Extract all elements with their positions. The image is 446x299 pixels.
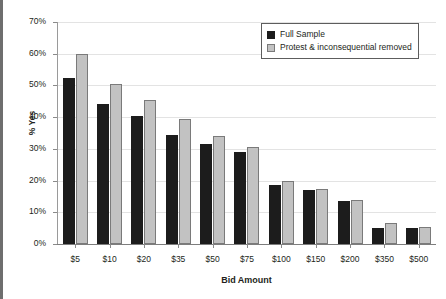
bar-group: $75 (230, 22, 264, 244)
y-axis-tick-mark (53, 149, 57, 150)
x-axis-tick-mark (350, 244, 351, 248)
bar (338, 201, 350, 244)
legend-item-protest-removed: Protest & inconsequential removed (267, 41, 412, 54)
bar (179, 119, 191, 244)
bar (166, 135, 178, 244)
legend-swatch-icon (267, 31, 275, 39)
y-axis-tick-label: 20% (10, 176, 46, 185)
y-axis-tick-mark (53, 244, 57, 245)
x-axis-title: Bid Amount (57, 275, 436, 285)
x-axis-tick-mark (247, 244, 248, 248)
bar (316, 189, 328, 245)
x-axis-tick-mark (75, 244, 76, 248)
bar (372, 228, 384, 244)
bar-group: $20 (127, 22, 161, 244)
x-axis-tick-mark (144, 244, 145, 248)
bar (282, 181, 294, 244)
y-axis-tick-label: 0% (10, 239, 46, 248)
bar (269, 185, 281, 244)
bar (385, 223, 397, 244)
x-axis-tick-label: $500 (390, 254, 446, 264)
x-axis-tick-mark (178, 244, 179, 248)
x-axis-tick-mark (384, 244, 385, 248)
image-left-edge-inner (3, 0, 5, 299)
bar-chart-figure: 0%10%20%30%40%50%60%70% % Yes $5$10$20$3… (0, 0, 446, 299)
y-axis-tick-label: 70% (10, 17, 46, 26)
legend-label: Full Sample (280, 30, 325, 39)
bar (200, 144, 212, 244)
x-axis-tick-mark (419, 244, 420, 248)
bar-group: $35 (161, 22, 195, 244)
legend-swatch-icon (267, 44, 275, 52)
bar (406, 228, 418, 244)
x-axis-tick-mark (110, 244, 111, 248)
chart-legend: Full Sample Protest & inconsequential re… (261, 23, 419, 59)
bar (76, 54, 88, 244)
bar-group: $50 (195, 22, 229, 244)
y-axis-tick-label: 10% (10, 207, 46, 216)
y-axis-tick-mark (53, 212, 57, 213)
bar (213, 136, 225, 244)
legend-item-full-sample: Full Sample (267, 28, 412, 41)
bar (303, 190, 315, 244)
bar-group: $10 (92, 22, 126, 244)
bar (234, 152, 246, 244)
legend-label: Protest & inconsequential removed (280, 43, 412, 52)
y-axis-tick-mark (53, 117, 57, 118)
bar (144, 100, 156, 244)
bar-group: $5 (58, 22, 92, 244)
y-axis-tick-mark (53, 54, 57, 55)
x-axis-tick-mark (281, 244, 282, 248)
bar (63, 78, 75, 245)
bar (419, 227, 431, 244)
y-axis-tick-mark (53, 85, 57, 86)
bar (351, 200, 363, 244)
x-axis-tick-mark (213, 244, 214, 248)
y-axis-tick-mark (53, 181, 57, 182)
x-axis-tick-mark (316, 244, 317, 248)
y-axis-tick-mark (53, 22, 57, 23)
bar (247, 147, 259, 244)
bar (131, 116, 143, 244)
bar (97, 104, 109, 244)
y-axis-tick-label: 60% (10, 49, 46, 58)
y-axis-title: % Yes (27, 88, 37, 158)
bar (110, 84, 122, 244)
